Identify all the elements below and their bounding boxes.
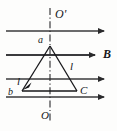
axis-top-label: O' [55,8,66,20]
vertex-c-label: C [80,85,87,96]
vertex-a-label: a [38,35,43,45]
vertex-b-label: b [8,87,13,97]
magnetic-field-label: B [103,48,111,60]
physics-diagram: O' a B l l C b O [0,0,117,131]
side-length-right-label: l [70,61,73,72]
side-length-left-label: l [17,76,20,87]
axis-bottom-label: O [41,110,49,121]
triangle-side-left [22,46,50,91]
magnetic-field-lines [6,31,104,97]
